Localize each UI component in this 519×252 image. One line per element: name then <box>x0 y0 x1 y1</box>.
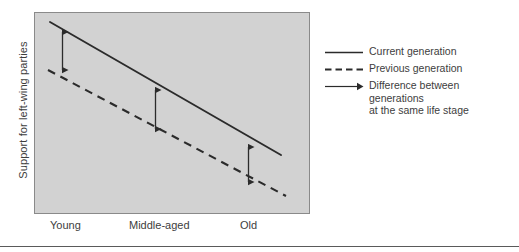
arrow-line-icon <box>324 79 364 93</box>
x-axis-tick-old: Old <box>240 219 257 231</box>
dashed-line-icon <box>324 62 364 76</box>
legend-label-previous-generation: Previous generation <box>364 62 462 75</box>
legend-label-current-generation: Current generation <box>364 45 457 58</box>
legend-item-current-generation: Current generation <box>324 45 514 59</box>
solid-line-icon <box>324 45 364 59</box>
chart-canvas <box>0 0 519 252</box>
bottom-divider <box>0 246 519 247</box>
y-axis-label: Support for left-wing parties <box>17 15 29 205</box>
x-axis-tick-middle-aged: Middle-aged <box>129 219 190 231</box>
chart-legend: Current generation Previous generation D… <box>324 45 514 117</box>
legend-item-previous-generation: Previous generation <box>324 62 514 76</box>
figure-container: Support for left-wing parties Young Midd… <box>0 0 519 252</box>
legend-item-difference: Difference between generations at the sa… <box>324 79 514 117</box>
x-axis-tick-young: Young <box>50 219 81 231</box>
legend-label-difference: Difference between generations at the sa… <box>364 79 514 117</box>
plot-area-background <box>35 13 310 214</box>
